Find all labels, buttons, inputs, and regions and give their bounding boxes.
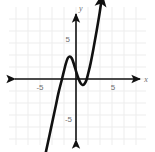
x-axis-name: x bbox=[143, 75, 148, 84]
graph-svg: -5 5 5 -5 x y bbox=[0, 0, 155, 152]
y-tick-label-neg5: -5 bbox=[65, 115, 73, 124]
coordinate-graph: -5 5 5 -5 x y bbox=[0, 0, 155, 152]
y-axis-name: y bbox=[78, 4, 83, 13]
y-tick-label-pos5: 5 bbox=[66, 35, 71, 44]
x-tick-label-pos5: 5 bbox=[111, 83, 116, 92]
x-tick-label-neg5: -5 bbox=[36, 83, 44, 92]
